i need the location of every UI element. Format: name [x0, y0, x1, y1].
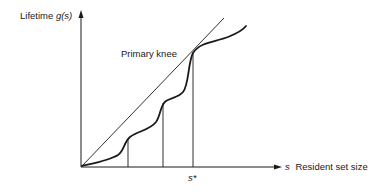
lifetime-curve [82, 26, 246, 166]
y-axis-arrowhead [79, 10, 84, 18]
y-axis-label-text: Lifetime [20, 10, 53, 21]
x-axis-label-text: Resident set size [295, 161, 367, 172]
y-axis-label: Lifetime g(s) [20, 11, 72, 21]
x-axis-label: s Resident set size [285, 162, 368, 172]
s-star-label: s* [188, 173, 196, 183]
primary-knee-label: Primary knee [121, 49, 177, 59]
y-axis-symbol: g(s) [56, 10, 72, 21]
x-axis-arrowhead [274, 165, 282, 170]
tangent-line [82, 18, 224, 166]
x-axis-symbol: s [285, 161, 290, 172]
